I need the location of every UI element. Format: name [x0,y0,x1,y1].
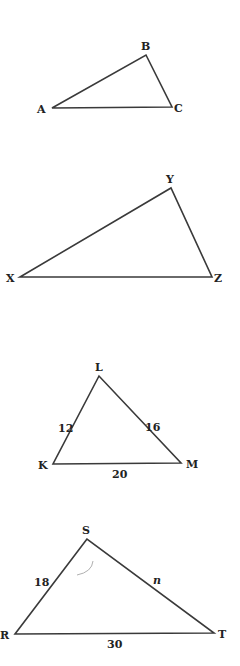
vertex-label-y: Y [165,173,174,186]
side-label-st: n [153,574,161,587]
side-label-rs: 18 [34,576,50,589]
vertex-label-t: T [218,628,227,641]
vertex-label-k: K [38,459,48,472]
triangle-xyz: X Y Z [6,173,222,285]
side-label-km: 20 [112,468,128,481]
triangle-figures: A B C X Y Z L K M 12 16 20 S R T 18 n 30 [0,0,240,666]
vertex-label-c: C [174,102,183,115]
vertex-label-l: L [95,361,103,374]
triangle-klm-outline [53,376,181,464]
side-label-rt: 30 [107,638,123,651]
vertex-label-r: R [0,629,10,642]
triangle-abc: A B C [36,40,183,116]
side-label-kl: 12 [58,422,73,435]
triangle-xyz-outline [20,188,212,277]
triangle-abc-outline [52,55,172,108]
vertex-label-a: A [36,103,46,116]
triangle-rst: S R T 18 n 30 [0,524,227,651]
side-label-lm: 16 [145,421,161,434]
vertex-label-m: M [186,458,198,471]
vertex-label-z: Z [214,272,222,285]
triangle-klm: L K M 12 16 20 [38,361,198,481]
vertex-label-b: B [141,40,150,53]
vertex-label-x: X [6,272,15,285]
angle-mark-s [77,561,93,575]
vertex-label-s: S [82,524,90,537]
